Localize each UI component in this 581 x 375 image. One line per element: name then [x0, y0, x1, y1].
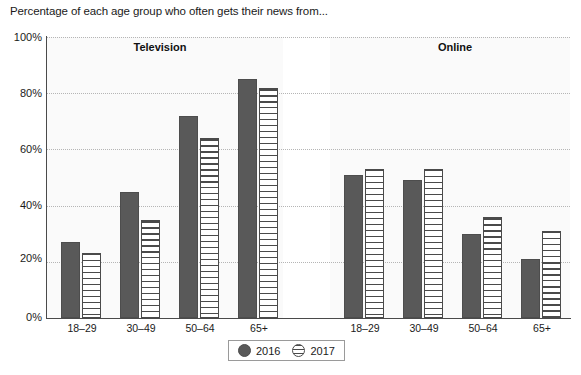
legend-swatch-2017-icon: [292, 344, 305, 357]
bar-online-18-29-2016: [344, 175, 363, 318]
bar-group-television-30-49: [120, 37, 162, 318]
bar-online-65plus-2016: [521, 259, 540, 318]
x-axis-label-online-30-49: 30–49: [394, 322, 454, 334]
bar-online-65plus-2017: [542, 231, 561, 318]
y-axis-tick-60: 60%: [2, 144, 42, 155]
bar-group-television-18-29: [61, 37, 103, 318]
bar-group-online-65plus: [521, 37, 563, 318]
legend-item-2016: 2016: [238, 344, 280, 357]
bar-online-50-64-2017: [483, 217, 502, 318]
x-axis-label-television-50-64: 50–64: [170, 322, 230, 334]
x-axis-label-online-18-29: 18–29: [335, 322, 395, 334]
legend-swatch-2016-icon: [238, 344, 251, 357]
bar-group-online-18-29: [344, 37, 386, 318]
bar-online-50-64-2016: [462, 234, 481, 318]
y-axis-tick-80: 80%: [2, 88, 42, 99]
bar-group-television-65plus: [238, 37, 280, 318]
bar-group-online-30-49: [403, 37, 445, 318]
bar-television-18-29-2016: [61, 242, 80, 318]
x-axis-label-television-18-29: 18–29: [52, 322, 112, 334]
x-axis-label-television-30-49: 30–49: [111, 322, 171, 334]
plot-area: [47, 37, 570, 318]
y-axis-tick-100: 100%: [2, 32, 42, 43]
chart-title: Percentage of each age group who often g…: [10, 5, 328, 17]
bar-television-65plus-2017: [259, 88, 278, 318]
legend-item-2017: 2017: [292, 344, 334, 357]
legend-label-2017: 2017: [310, 345, 334, 357]
panel-title-online: Online: [375, 41, 535, 53]
bar-television-18-29-2017: [82, 253, 101, 318]
x-axis-label-online-65plus: 65+: [512, 322, 572, 334]
legend-label-2016: 2016: [256, 345, 280, 357]
bar-television-30-49-2017: [141, 220, 160, 318]
y-axis-tick-20: 20%: [2, 253, 42, 264]
bar-online-18-29-2017: [365, 169, 384, 318]
bar-group-television-50-64: [179, 37, 221, 318]
bar-television-30-49-2016: [120, 192, 139, 318]
chart-legend: 2016 2017: [228, 340, 345, 361]
y-axis-tick-0: 0%: [2, 312, 42, 323]
bar-online-30-49-2016: [403, 180, 422, 318]
bar-online-30-49-2017: [424, 169, 443, 318]
y-axis-tick-40: 40%: [2, 200, 42, 211]
bar-television-50-64-2016: [179, 116, 198, 318]
bar-chart: Percentage of each age group who often g…: [0, 0, 581, 375]
panel-title-television: Television: [80, 41, 240, 53]
bar-group-online-50-64: [462, 37, 504, 318]
bar-television-50-64-2017: [200, 138, 219, 318]
x-axis-line: [46, 318, 571, 319]
x-axis-label-television-65plus: 65+: [229, 322, 289, 334]
bar-television-65plus-2016: [238, 79, 257, 318]
x-axis-label-online-50-64: 50–64: [453, 322, 513, 334]
